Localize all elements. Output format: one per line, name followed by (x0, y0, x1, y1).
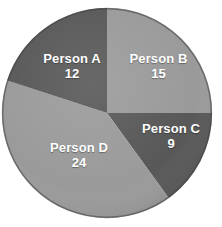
pie-chart (0, 0, 222, 227)
pie-chart-page: Person A 12 Person B 15 Person C 9 Perso… (0, 0, 222, 227)
